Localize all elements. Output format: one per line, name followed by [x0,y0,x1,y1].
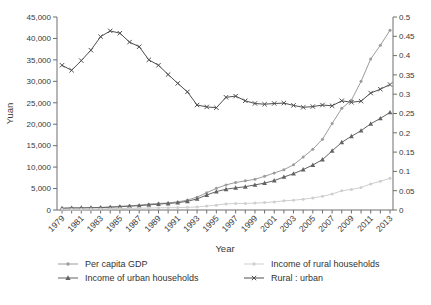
y-axis-title: Yuan [4,103,15,125]
y-left-tick-label: 15,000 [27,141,52,150]
y-right-tick-label: 0.3 [399,90,411,99]
y-left-tick-label: 45,000 [27,13,52,22]
y-left-tick-label: 30,000 [27,77,52,86]
income-of-rural-households-legend-label: Income of rural households [271,259,380,269]
legend-item-income-of-rural-households: Income of rural households [243,259,380,269]
y-left-tick-label: 0 [47,206,52,215]
x-tick-label: 1983 [85,213,106,234]
x-axis-title: Year [215,243,234,254]
income-of-urban-households-legend-label: Income of urban households [85,273,199,283]
x-tick-label: 1987 [123,213,144,234]
series-per-capita-gdp [61,29,392,210]
x-tick-label: 1999 [239,213,260,234]
series-income-of-urban-households [60,110,393,210]
x-tick-label: 1979 [46,213,67,234]
figure: 05,00010,00015,00020,00025,00030,00035,0… [0,0,431,305]
per-capita-gdp-legend-label: Per capita GDP [85,259,148,269]
income-of-rural-households-legend-marker [243,259,265,269]
y-left-tick-label: 5,000 [31,184,52,193]
y-right-tick-label: 0.05 [399,187,415,196]
rural-urban-ratio-legend-marker [243,273,265,283]
x-tick-label: 2001 [258,213,279,234]
x-tick-label: 1981 [65,213,86,234]
x-tick-label: 1995 [200,213,221,234]
chart-svg: 05,00010,00015,00020,00025,00030,00035,0… [0,0,431,258]
x-tick-label: 2013 [374,213,395,234]
y-left-tick-label: 40,000 [27,34,52,43]
income-of-urban-households-legend-marker [57,273,79,283]
x-tick-label: 2011 [355,213,375,233]
y-right-tick-label: 0.4 [399,51,411,60]
rural-urban-ratio-legend-label: Rural : urban [271,273,323,283]
y-right-tick-label: 0.2 [399,129,411,138]
x-tick-label: 1993 [181,213,202,234]
per-capita-gdp-legend-marker [57,259,79,269]
legend-item-income-of-urban-households: Income of urban households [57,273,243,283]
x-tick-label: 1985 [104,213,125,234]
legend-item-per-capita-gdp: Per capita GDP [57,259,243,269]
chart-legend: Per capita GDP Income of rural household… [57,259,380,283]
y-right-tick-label: 0.5 [399,13,411,22]
y-left-tick-label: 25,000 [27,99,52,108]
series-rural-urban [60,29,392,110]
x-tick-label: 2003 [277,213,298,234]
y-axis-right: 00.050.10.150.20.250.30.350.40.450.5 [393,13,415,215]
y-right-tick-label: 0.15 [399,148,415,157]
y-right-tick-label: 0.45 [399,32,415,41]
x-tick-label: 2009 [335,213,356,234]
y-left-tick-label: 35,000 [27,56,52,65]
y-right-tick-label: 0.35 [399,71,415,80]
x-tick-label: 2005 [297,213,318,234]
y-left-tick-label: 20,000 [27,120,52,129]
y-right-tick-label: 0 [399,206,404,215]
y-left-tick-label: 10,000 [27,163,52,172]
axes [57,17,393,210]
x-axis: 1979198119831985198719891991199319951997… [46,210,395,234]
y-right-tick-label: 0.25 [399,109,415,118]
x-tick-label: 1989 [142,213,163,234]
y-right-tick-label: 0.1 [399,167,411,176]
legend-item-rural-urban-ratio: Rural : urban [243,273,380,283]
x-tick-label: 2007 [316,213,337,234]
x-tick-label: 1997 [220,213,241,234]
x-tick-label: 1991 [162,213,183,234]
y-axis-left: 05,00010,00015,00020,00025,00030,00035,0… [27,13,57,215]
